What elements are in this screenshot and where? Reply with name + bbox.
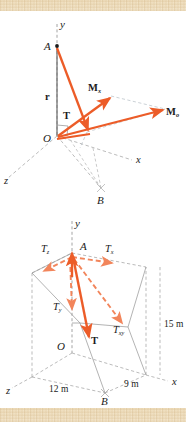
point-label-B: B: [101, 395, 108, 407]
axis-label-x: x: [171, 376, 177, 387]
box-top-edge-right: [72, 253, 146, 267]
moment-of-force-diagram: y A O B x z r T Mx Mo: [0, 8, 186, 208]
dimension-label-9m: 9 m: [124, 379, 139, 389]
vector-label-T: T: [91, 335, 98, 346]
point-label-O: O: [43, 132, 51, 144]
vector-label-Mo: Mo: [166, 106, 179, 118]
dashed-vector-A-to-Tx: [72, 257, 112, 263]
plane-line-Tzfoot-to-Txyfoot: [32, 273, 80, 323]
point-label-A: A: [79, 240, 87, 252]
vector-label-Tz: Tz: [41, 243, 50, 255]
point-label-A: A: [43, 40, 51, 52]
point-label-O: O: [57, 340, 65, 352]
axis-label-z: z: [5, 385, 10, 396]
axis-label-y: y: [59, 18, 65, 30]
axis-label-y: y: [74, 217, 80, 229]
vector-label-Tx: Tx: [105, 243, 114, 255]
plane-line-mid-to-B: [80, 323, 105, 393]
axis-label-x: x: [135, 154, 141, 165]
point-A-dot: [55, 44, 59, 48]
dimension-label-12m: 12 m: [49, 384, 69, 394]
paper-texture-bottom: [0, 408, 186, 422]
axis-label-z: z: [3, 175, 8, 186]
figure-root: y A O B x z r T Mx Mo: [0, 0, 186, 422]
construction-parallelogram-1: [111, 96, 165, 109]
dashed-vector-A-to-Tz: [44, 257, 72, 271]
dimension-label-15m: 15 m: [164, 319, 184, 329]
ground-edge-front-left: [32, 377, 105, 393]
vector-label-Txy: Txy: [113, 324, 125, 336]
plane-line-right-to-A: [128, 267, 146, 327]
dashed-vector-A-to-Txy: [74, 259, 122, 323]
plane-line-Txy-to-B: [128, 327, 146, 375]
axis-x: [57, 136, 132, 160]
point-B-mark: [97, 184, 105, 192]
tension-components-diagram: y A O B x z Tz Tx Ty Txy T 15 m 12 m 9 m: [0, 205, 186, 405]
axis-z-extend: [12, 377, 32, 388]
vector-label-Mx: Mx: [88, 82, 101, 94]
vector-label-r: r: [45, 91, 50, 102]
axis-x-extend: [146, 375, 168, 381]
construction-O-B: [57, 136, 101, 188]
ground-edge-z: [32, 353, 72, 377]
ground-edge-x: [72, 353, 146, 375]
vector-label-T: T: [63, 110, 70, 121]
plane-line-A-to-Tz-foot: [32, 253, 72, 273]
